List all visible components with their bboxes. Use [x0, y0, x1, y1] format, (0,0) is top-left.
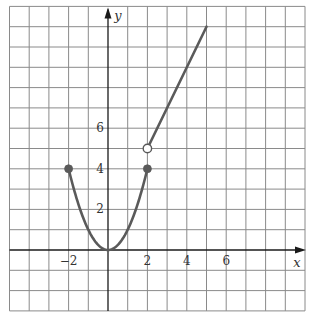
x-tick-label: 6: [222, 254, 230, 268]
closed-endpoint-marker: [143, 165, 151, 173]
x-axis-arrow-icon: [295, 247, 306, 254]
piecewise-function-graph: −2246246xy: [0, 0, 312, 320]
grid-lines: [10, 6, 306, 311]
x-tick-label: −2: [60, 254, 78, 268]
axis-tick-labels: −2246246xy: [60, 8, 302, 270]
open-endpoint-marker: [143, 144, 151, 152]
y-tick-label: 2: [96, 202, 104, 216]
axes: [10, 7, 307, 311]
y-axis-label: y: [113, 8, 122, 23]
x-tick-label: 2: [144, 254, 152, 268]
y-tick-label: 4: [96, 162, 104, 176]
x-axis-label: x: [293, 255, 301, 270]
x-tick-label: 4: [183, 254, 191, 268]
function-curves: [69, 27, 207, 250]
y-tick-label: 6: [96, 121, 104, 135]
closed-endpoint-marker: [65, 165, 73, 173]
y-axis-arrow-icon: [105, 7, 112, 18]
